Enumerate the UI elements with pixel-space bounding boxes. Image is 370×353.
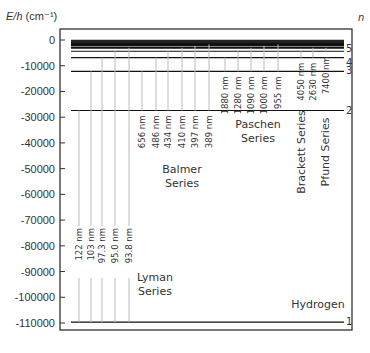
n-axis-label: n bbox=[358, 12, 364, 23]
y-tick-label: -30000 bbox=[21, 111, 55, 123]
wavelength-label: 397 nm bbox=[190, 116, 200, 149]
series-label: Paschen bbox=[235, 118, 280, 131]
series-label: Series bbox=[138, 285, 172, 298]
series-label: Series bbox=[165, 177, 199, 190]
wavelength-label: 486 nm bbox=[151, 116, 161, 149]
diagram-title: Hydrogen bbox=[291, 298, 345, 311]
wavelength-label: 955 nm bbox=[273, 76, 283, 109]
energy-level-diagram: E/h (cm⁻¹)n0-10000-20000-30000-40000-500… bbox=[0, 0, 370, 353]
level-label-n1: 1 bbox=[346, 316, 352, 327]
series-label: Balmer bbox=[162, 163, 202, 176]
y-tick-label: -80000 bbox=[21, 240, 55, 252]
wavelength-label: 389 nm bbox=[204, 116, 214, 149]
y-tick-label: -100000 bbox=[15, 291, 55, 303]
y-tick-label: -70000 bbox=[21, 214, 55, 226]
wavelength-label: 97.3 nm bbox=[97, 228, 107, 263]
level-label-n2: 2 bbox=[346, 105, 352, 116]
wavelength-label: 656 nm bbox=[137, 116, 147, 149]
wavelength-label: 103 nm bbox=[86, 228, 96, 261]
wavelength-label: 7400 nm bbox=[321, 56, 331, 94]
y-tick-label: -10000 bbox=[21, 60, 55, 72]
wavelength-label: 1000 nm bbox=[259, 76, 269, 114]
level-label-n5: 5 bbox=[346, 43, 352, 54]
y-tick-label: -90000 bbox=[21, 266, 55, 278]
wavelength-label: 4050 nm bbox=[296, 63, 306, 101]
wavelength-label: 95.0 nm bbox=[110, 228, 120, 263]
y-tick-label: 0 bbox=[49, 34, 55, 46]
y-tick-label: -60000 bbox=[21, 188, 55, 200]
wavelength-label: 2630 nm bbox=[308, 63, 318, 101]
y-tick-label: -50000 bbox=[21, 163, 55, 175]
y-axis-label: E/h (cm⁻¹) bbox=[6, 10, 57, 22]
series-label: Series bbox=[241, 132, 275, 145]
wavelength-label: 1880 nm bbox=[220, 76, 230, 114]
wavelength-label: 93.8 nm bbox=[124, 228, 134, 263]
series-label: Lyman bbox=[137, 271, 173, 284]
wavelength-label: 1280 nm bbox=[233, 76, 243, 114]
series-label: Brackett Series bbox=[295, 110, 308, 194]
level-label-n4: 4 bbox=[346, 57, 352, 68]
y-tick-label: -40000 bbox=[21, 137, 55, 149]
wavelength-label: 434 nm bbox=[163, 116, 173, 149]
series-label: Pfund Series bbox=[319, 117, 332, 186]
y-tick-label: -20000 bbox=[21, 85, 55, 97]
y-tick-label: -110000 bbox=[15, 317, 55, 329]
wavelength-label: 1090 nm bbox=[246, 76, 256, 114]
wavelength-label: 410 nm bbox=[177, 116, 187, 149]
wavelength-label: 122 nm bbox=[74, 228, 84, 261]
